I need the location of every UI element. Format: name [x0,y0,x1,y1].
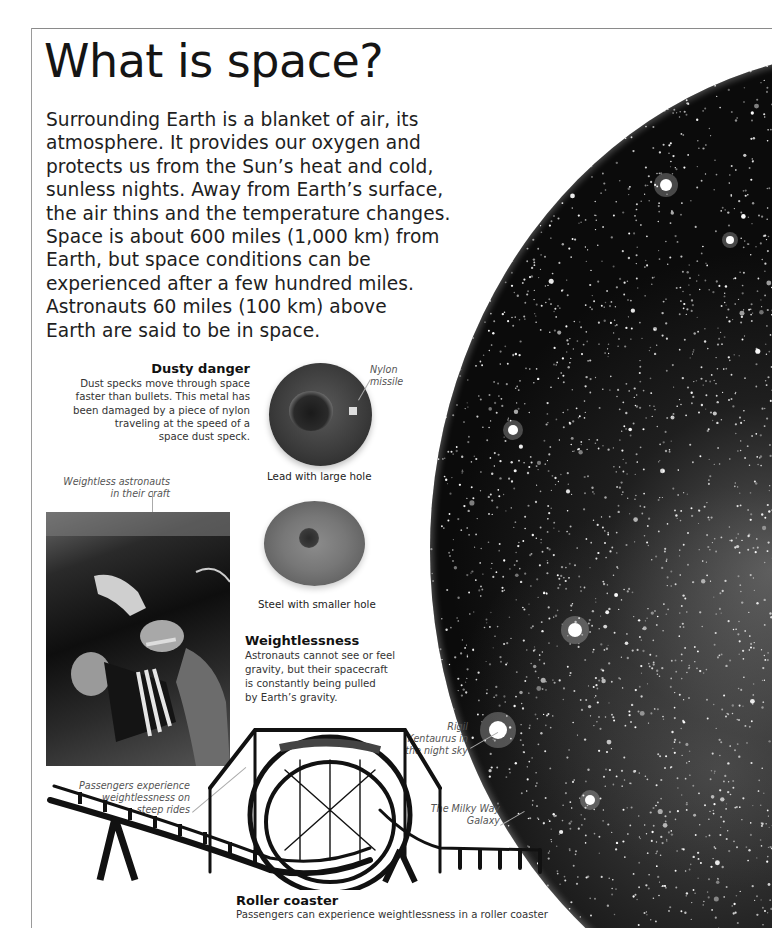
dusty-danger-section: Dusty danger Dust specks move through sp… [60,361,250,443]
body-line: faster than bullets. This metal has [60,390,250,403]
weightlessness-body: Astronauts cannot see or feel gravity, b… [245,649,445,705]
page-frame-left-rule [31,28,32,928]
intro-line: atmosphere. It provides our oxygen and [46,131,456,154]
body-line: Astronauts cannot see or feel [245,649,445,663]
lead-disc-image [269,363,372,466]
intro-line: Earth are said to be in space. [46,319,456,342]
roller-coaster-illustration [40,700,560,890]
intro-line: experienced after a few hundred miles. [46,272,456,295]
body-line: Dust specks move through space [60,377,250,390]
nylon-missile-label: Nylon missile [370,364,403,388]
body-line: is constantly being pulled [245,677,445,691]
roller-coaster-section: Roller coaster Passengers can experience… [236,893,772,922]
dusty-danger-body: Dust specks move through space faster th… [60,377,250,443]
weightlessness-section: Weightlessness Astronauts cannot see or … [245,633,445,705]
body-line: space dust speck. [60,430,250,443]
intro-line: Astronauts 60 miles (100 km) above [46,295,456,318]
page-frame-top-rule [31,28,772,29]
weightlessness-heading: Weightlessness [245,633,445,648]
steel-disc-image [264,501,365,586]
body-line: gravity, but their spacecraft [245,663,445,677]
lead-caption: Lead with large hole [267,470,372,482]
dusty-danger-heading: Dusty danger [60,361,250,376]
astronauts-leader-line [152,492,153,512]
large-hole [289,391,333,431]
intro-line: Earth, but space conditions can be [46,248,456,271]
roller-coaster-body: Passengers can experience weightlessness… [236,908,772,922]
label-line: Nylon [370,364,403,376]
intro-line: Surrounding Earth is a blanket of air, i… [46,108,456,131]
intro-line: sunless nights. Away from Earth’s surfac… [46,178,456,201]
body-line: been damaged by a piece of nylon [60,404,250,417]
astronauts-label: Weightless astronauts in their craft [40,476,170,500]
steel-caption: Steel with smaller hole [258,598,376,610]
label-line: in their craft [40,488,170,500]
label-line: missile [370,376,403,388]
nylon-missile [349,407,357,415]
label-line: Weightless astronauts [40,476,170,488]
roller-coaster-heading: Roller coaster [236,893,772,908]
page-title: What is space? [44,34,383,88]
body-line: traveling at the speed of a [60,417,250,430]
intro-line: the air thins and the temperature change… [46,202,456,225]
intro-line: Space is about 600 miles (1,000 km) from [46,225,456,248]
intro-paragraph: Surrounding Earth is a blanket of air, i… [46,108,456,342]
intro-line: protects us from the Sun’s heat and cold… [46,155,456,178]
small-hole [299,528,319,548]
